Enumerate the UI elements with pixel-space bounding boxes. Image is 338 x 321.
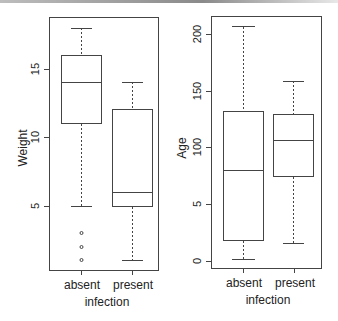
y-tick-label: 100 (191, 138, 203, 156)
box-absent (62, 28, 102, 262)
y-tick-label: 15 (29, 63, 41, 75)
x-tick-label: absent (226, 276, 263, 290)
y-tick-label: 10 (29, 131, 41, 143)
y-tick-label: 150 (191, 82, 203, 100)
box-absent (224, 27, 264, 260)
x-axis-label: infection (246, 293, 291, 307)
boxplot-figure: 15 10 5 Weight absent present infection (0, 0, 338, 321)
x-tick-label: absent (64, 278, 101, 292)
x-tick-label: present (275, 276, 316, 290)
age-panel: 200 150 100 5 0 Age absent present infec… (175, 17, 322, 308)
box-present (274, 81, 314, 244)
x-axis-label: infection (85, 295, 130, 309)
box-present (113, 82, 153, 261)
y-axis (206, 35, 211, 262)
y-axis-label: Age (175, 137, 189, 159)
y-tick-label: 5 (29, 203, 41, 209)
y-axis (44, 70, 49, 207)
y-tick-label: 200 (191, 25, 203, 43)
plot-frame (212, 17, 322, 269)
weight-panel: 15 10 5 Weight absent present infection (16, 18, 159, 310)
y-axis-label: Weight (16, 129, 30, 167)
y-tick-label: 0 (191, 258, 203, 264)
x-tick-label: present (113, 278, 154, 292)
y-tick-label: 5 (191, 201, 203, 207)
